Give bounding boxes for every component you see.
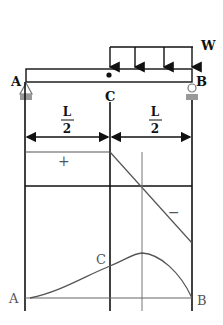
midpoint-dot	[106, 72, 111, 77]
moment-label-c: C	[96, 252, 106, 267]
svg-text:L: L	[63, 105, 72, 119]
load-label: W	[200, 38, 216, 53]
svg-text:2: 2	[63, 122, 71, 136]
span-left-dimension: L 2	[27, 105, 108, 137]
span-right-dimension: L 2	[112, 105, 190, 137]
shear-force-diagram	[25, 152, 192, 243]
distributed-load	[110, 47, 193, 67]
support-left-label: A	[10, 74, 22, 89]
midpoint-label: C	[105, 89, 115, 104]
svg-text:L: L	[151, 105, 160, 119]
beam-diagram: W A B C L 2 L 2 + − A	[0, 0, 223, 325]
bending-moment-diagram	[25, 253, 192, 298]
svg-text:2: 2	[151, 122, 159, 136]
moment-label-a: A	[8, 291, 19, 306]
shear-negative-sign: −	[168, 204, 180, 220]
support-right-label: B	[196, 74, 207, 89]
shear-positive-sign: +	[58, 153, 70, 169]
moment-label-b: B	[197, 293, 207, 308]
pin-support-left	[20, 83, 32, 100]
